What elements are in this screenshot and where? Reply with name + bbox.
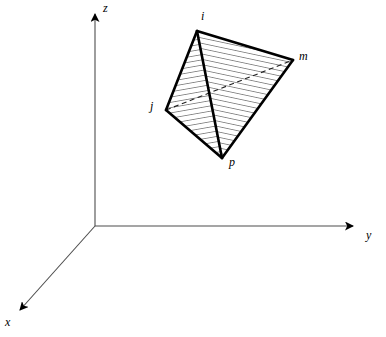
- axis-label-x: x: [5, 316, 10, 328]
- axis-label-z: z: [103, 2, 108, 14]
- diagram-svg: [0, 0, 386, 337]
- vertex-label-i: i: [201, 10, 204, 22]
- vertex-label-j: j: [150, 100, 153, 112]
- figure-canvas: z y x i m j p: [0, 0, 386, 337]
- vertex-label-p: p: [229, 156, 235, 168]
- axis-label-y: y: [366, 229, 371, 241]
- tetrahedron-group: [166, 31, 293, 158]
- axis-x-line: [20, 226, 95, 310]
- vertex-label-m: m: [299, 50, 308, 62]
